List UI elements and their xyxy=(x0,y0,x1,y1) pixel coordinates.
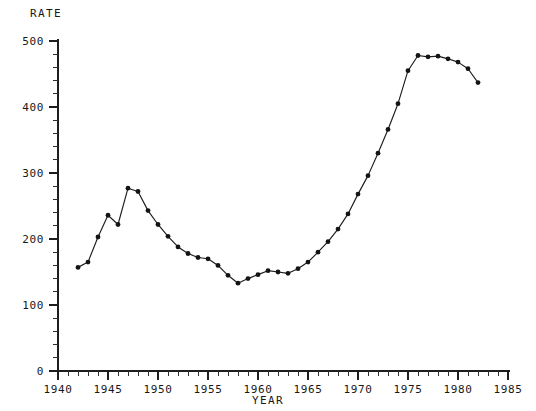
x-axis: 1940194519501955196019651970197519801985 xyxy=(44,371,523,396)
data-point-marker xyxy=(316,250,321,255)
data-point-marker xyxy=(466,66,471,71)
y-tick-label: 100 xyxy=(22,299,44,312)
x-tick-label: 1950 xyxy=(144,383,173,396)
data-point-marker xyxy=(86,260,91,265)
x-tick-label: 1940 xyxy=(44,383,73,396)
data-point-marker xyxy=(116,222,121,227)
data-point-marker xyxy=(246,276,251,281)
y-axis-title: RATE xyxy=(30,7,62,20)
y-tick-label: 400 xyxy=(22,101,44,114)
chart-container: 0100200300400500 19401945195019551960196… xyxy=(0,0,536,411)
y-tick-label: 0 xyxy=(37,365,44,378)
line-chart: 0100200300400500 19401945195019551960196… xyxy=(0,0,536,411)
x-tick-label: 1945 xyxy=(94,383,123,396)
data-point-marker xyxy=(186,251,191,256)
series-polyline xyxy=(78,56,478,284)
data-point-marker xyxy=(156,222,161,227)
y-tick-label: 200 xyxy=(22,233,44,246)
y-tick-label: 500 xyxy=(22,35,44,48)
data-point-marker xyxy=(146,208,151,213)
data-point-marker xyxy=(96,235,101,240)
x-tick-label: 1970 xyxy=(344,383,373,396)
data-point-marker xyxy=(396,101,401,106)
data-point-marker xyxy=(126,186,131,191)
data-point-marker xyxy=(336,227,341,232)
data-point-marker xyxy=(106,213,111,218)
y-axis: 0100200300400500 xyxy=(22,35,58,378)
data-point-marker xyxy=(176,245,181,250)
data-point-marker xyxy=(206,256,211,261)
x-tick-label: 1975 xyxy=(394,383,423,396)
x-tick-label: 1965 xyxy=(294,383,323,396)
data-point-marker xyxy=(356,192,361,197)
data-point-marker xyxy=(286,271,291,276)
y-tick-label: 300 xyxy=(22,167,44,180)
data-point-marker xyxy=(446,56,451,61)
x-tick-label: 1980 xyxy=(444,383,473,396)
data-point-marker xyxy=(456,60,461,65)
data-point-marker xyxy=(326,239,331,244)
data-point-marker xyxy=(266,268,271,273)
data-point-marker xyxy=(476,80,481,85)
data-point-marker xyxy=(236,281,241,286)
data-point-marker xyxy=(386,127,391,132)
data-point-marker xyxy=(226,273,231,278)
x-axis-title: YEAR xyxy=(252,394,284,407)
data-point-marker xyxy=(136,189,141,194)
data-point-marker xyxy=(196,255,201,260)
data-point-marker xyxy=(436,54,441,59)
data-point-marker xyxy=(276,270,281,275)
x-tick-label: 1955 xyxy=(194,383,223,396)
data-series xyxy=(76,53,481,286)
data-point-marker xyxy=(376,151,381,156)
data-point-marker xyxy=(306,260,311,265)
data-point-marker xyxy=(76,265,81,270)
data-point-marker xyxy=(406,68,411,73)
data-point-marker xyxy=(216,263,221,268)
data-point-marker xyxy=(256,272,261,277)
data-point-marker xyxy=(346,212,351,217)
data-point-marker xyxy=(166,234,171,239)
data-point-marker xyxy=(296,266,301,271)
data-point-marker xyxy=(426,54,431,59)
data-point-marker xyxy=(416,53,421,58)
x-tick-label: 1985 xyxy=(494,383,523,396)
data-point-marker xyxy=(366,173,371,178)
